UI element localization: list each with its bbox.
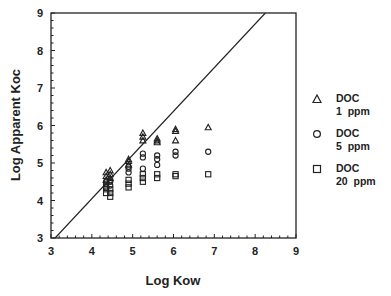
legend-item-doc-20ppm: DOC 20 ppm [312, 162, 391, 197]
legend-label-line2: 1 ppm [336, 105, 370, 117]
data-point [126, 181, 131, 186]
legend-label-line1: DOC [336, 162, 359, 174]
x-tick-label: 3 [48, 245, 54, 257]
data-point [173, 172, 178, 177]
y-tick-label: 7 [37, 82, 43, 94]
data-point [140, 179, 145, 184]
data-point [140, 166, 145, 171]
x-tick-label: 9 [293, 245, 299, 257]
x-tick-label: 8 [252, 245, 258, 257]
legend-item-doc-1ppm: DOC 1 ppm [312, 92, 391, 127]
data-point [155, 162, 160, 167]
regression-line [55, 13, 265, 238]
legend-label-line2: 20 ppm [336, 175, 376, 187]
data-point [140, 172, 145, 177]
x-tick-label: 4 [89, 245, 96, 257]
data-point [206, 172, 211, 177]
circle-marker-icon [312, 129, 322, 139]
y-tick-label: 3 [37, 232, 43, 244]
triangle-marker-icon [312, 94, 322, 104]
series-square [104, 172, 211, 200]
axis-ticks: 34567893456789 [37, 7, 299, 257]
data-points [103, 124, 211, 199]
data-point [155, 172, 160, 177]
y-tick-label: 4 [37, 195, 44, 207]
legend-label-line1: DOC [336, 127, 359, 139]
data-point [173, 138, 179, 143]
reference-line [55, 13, 265, 238]
legend-label-line2: 5 ppm [336, 140, 370, 152]
x-axis-title: Log Kow [146, 273, 202, 288]
data-point [155, 153, 160, 158]
data-point [155, 175, 160, 180]
legend: DOC 1 ppm DOC 5 ppm DOC 20 ppm [312, 92, 391, 197]
x-tick-label: 7 [211, 245, 217, 257]
y-tick-label: 8 [37, 45, 43, 57]
y-axis-title: Log Apparent Koc [8, 69, 23, 181]
data-point [206, 149, 211, 154]
data-point [140, 151, 145, 156]
data-point [140, 175, 145, 180]
legend-label-line1: DOC [336, 92, 359, 104]
data-point [173, 149, 178, 154]
y-tick-label: 6 [37, 120, 43, 132]
legend-item-doc-5ppm: DOC 5 ppm [312, 127, 391, 162]
x-tick-label: 5 [130, 245, 136, 257]
plot-frame [51, 13, 296, 238]
y-tick-label: 9 [37, 7, 43, 19]
square-marker-icon [312, 164, 322, 174]
data-point [205, 124, 211, 129]
y-tick-label: 5 [37, 157, 43, 169]
data-point [126, 185, 131, 190]
data-point [126, 177, 131, 182]
data-point [173, 174, 178, 179]
x-tick-label: 6 [170, 245, 176, 257]
